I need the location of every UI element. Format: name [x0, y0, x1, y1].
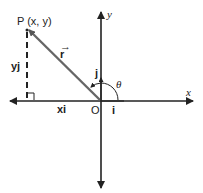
origin-label: O: [91, 104, 100, 116]
right-angle-marker: [27, 93, 34, 100]
theta-label: θ: [116, 78, 122, 90]
position-vector-diagram: P (x, y) r → yj xi O i j θ x y: [0, 0, 203, 193]
x-component-label: xi: [57, 103, 66, 115]
unit-j-label: j: [94, 67, 98, 79]
unit-i-label: i: [112, 104, 115, 116]
theta-arc: [91, 83, 118, 100]
point-p: [26, 29, 29, 32]
y-axis-label: y: [106, 8, 112, 20]
vector-r-arrow-accent: →: [60, 40, 71, 52]
point-p-label: P (x, y): [17, 15, 52, 27]
x-axis-label: x: [185, 86, 191, 98]
y-component-label: yj: [11, 60, 20, 72]
